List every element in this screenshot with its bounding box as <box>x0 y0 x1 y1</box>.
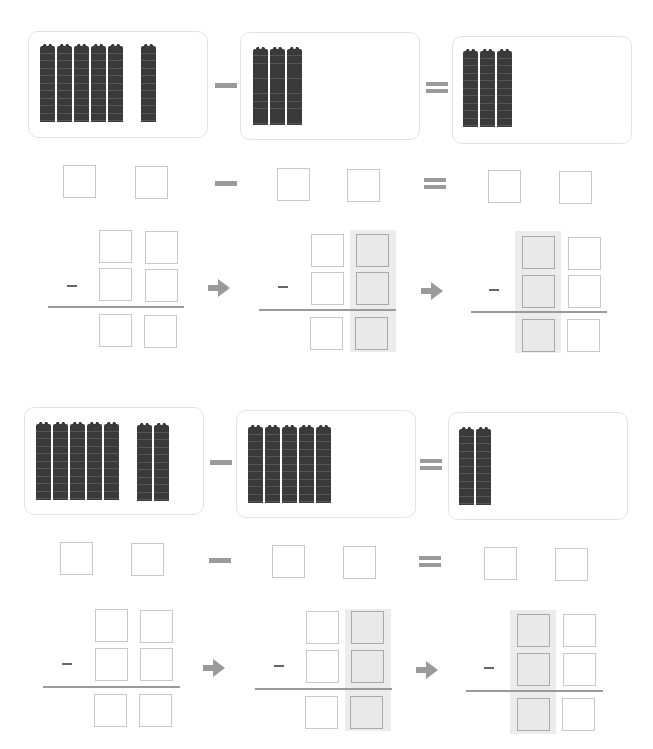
ten-rod <box>316 427 331 503</box>
answer-box-subtrahend-tens[interactable] <box>272 545 305 578</box>
vertical-minus-sign <box>278 286 288 288</box>
ten-rod <box>463 51 478 127</box>
ten-rod <box>141 46 156 122</box>
ten-rod <box>74 46 89 122</box>
vertical-box[interactable] <box>310 317 343 350</box>
ten-rod <box>265 427 280 503</box>
vertical-box[interactable] <box>562 698 595 731</box>
arrow-right-icon <box>203 659 225 677</box>
vertical-box[interactable] <box>568 237 601 270</box>
sum-line <box>255 688 392 690</box>
vertical-box[interactable] <box>144 315 177 348</box>
minus-sign <box>215 181 237 186</box>
ten-rod <box>282 427 297 503</box>
ten-rod <box>476 429 491 505</box>
answer-box-subtrahend-ones[interactable] <box>343 546 376 579</box>
answer-box-subtrahend-ones[interactable] <box>347 169 380 202</box>
ten-rod <box>270 49 285 125</box>
vertical-box[interactable] <box>306 611 339 644</box>
vertical-box[interactable] <box>305 696 338 729</box>
answer-box-minuend-ones[interactable] <box>135 166 168 199</box>
vertical-box-shaded[interactable] <box>522 275 555 308</box>
vertical-box[interactable] <box>99 230 132 263</box>
ten-rod <box>36 424 51 500</box>
difference-card <box>448 412 628 520</box>
answer-box-difference-ones[interactable] <box>555 548 588 581</box>
ten-rod <box>104 424 119 500</box>
ten-rod <box>137 425 152 501</box>
difference-card <box>452 36 632 144</box>
sum-line <box>48 306 184 308</box>
vertical-box[interactable] <box>99 268 132 301</box>
ten-rod <box>154 425 169 501</box>
vertical-minus-sign <box>489 289 499 291</box>
ten-rod <box>299 427 314 503</box>
vertical-box[interactable] <box>140 610 173 643</box>
equals-sign <box>419 556 441 567</box>
vertical-box[interactable] <box>568 275 601 308</box>
vertical-box[interactable] <box>306 650 339 683</box>
ten-rod <box>480 51 495 127</box>
ten-rod <box>253 49 268 125</box>
answer-box-subtrahend-tens[interactable] <box>277 168 310 201</box>
vertical-box[interactable] <box>139 694 172 727</box>
vertical-minus-sign <box>62 663 72 665</box>
answer-box-difference-ones[interactable] <box>559 171 592 204</box>
vertical-minus-sign <box>274 665 284 667</box>
answer-box-minuend-ones[interactable] <box>131 543 164 576</box>
vertical-box-shaded[interactable] <box>517 698 550 731</box>
minuend-card <box>28 31 208 138</box>
vertical-box[interactable] <box>99 314 132 347</box>
vertical-box-shaded[interactable] <box>351 611 384 644</box>
vertical-minus-sign <box>67 285 77 287</box>
vertical-box-shaded[interactable] <box>517 614 550 647</box>
minus-sign <box>215 83 237 88</box>
equals-sign <box>420 459 442 470</box>
vertical-box-shaded[interactable] <box>356 272 389 305</box>
vertical-box-shaded[interactable] <box>522 236 555 269</box>
answer-box-difference-tens[interactable] <box>488 170 521 203</box>
vertical-box[interactable] <box>563 653 596 686</box>
vertical-box[interactable] <box>95 648 128 681</box>
ten-rod <box>40 46 55 122</box>
minuend-card <box>24 407 204 515</box>
answer-box-minuend-tens[interactable] <box>60 542 93 575</box>
arrow-right-icon <box>421 282 443 300</box>
minus-sign <box>210 460 232 465</box>
vertical-box-shaded[interactable] <box>355 317 388 350</box>
vertical-box-shaded[interactable] <box>522 319 555 352</box>
minus-sign <box>209 558 231 563</box>
sum-line <box>43 686 180 688</box>
vertical-box-shaded[interactable] <box>517 653 550 686</box>
vertical-box[interactable] <box>145 231 178 264</box>
arrow-right-icon <box>208 279 230 297</box>
vertical-box-shaded[interactable] <box>356 234 389 267</box>
sum-line <box>259 309 396 311</box>
vertical-box[interactable] <box>311 272 344 305</box>
vertical-box[interactable] <box>311 234 344 267</box>
subtrahend-card <box>240 32 420 140</box>
ten-rod <box>70 424 85 500</box>
equals-sign <box>424 178 446 189</box>
sum-line <box>466 690 603 692</box>
vertical-box[interactable] <box>145 269 178 302</box>
ten-rod <box>497 51 512 127</box>
ten-rod <box>287 49 302 125</box>
subtrahend-card <box>236 410 416 518</box>
vertical-box[interactable] <box>140 648 173 681</box>
vertical-box[interactable] <box>95 609 128 642</box>
ten-rod <box>91 46 106 122</box>
answer-box-minuend-tens[interactable] <box>63 165 96 198</box>
vertical-box-shaded[interactable] <box>351 650 384 683</box>
vertical-box[interactable] <box>563 614 596 647</box>
ten-rod <box>87 424 102 500</box>
vertical-box[interactable] <box>94 694 127 727</box>
vertical-box[interactable] <box>567 319 600 352</box>
arrow-right-icon <box>416 661 438 679</box>
ten-rod <box>108 46 123 122</box>
ten-rod <box>57 46 72 122</box>
vertical-box-shaded[interactable] <box>350 696 383 729</box>
answer-box-difference-tens[interactable] <box>484 547 517 580</box>
ten-rod <box>53 424 68 500</box>
ten-rod <box>248 427 263 503</box>
